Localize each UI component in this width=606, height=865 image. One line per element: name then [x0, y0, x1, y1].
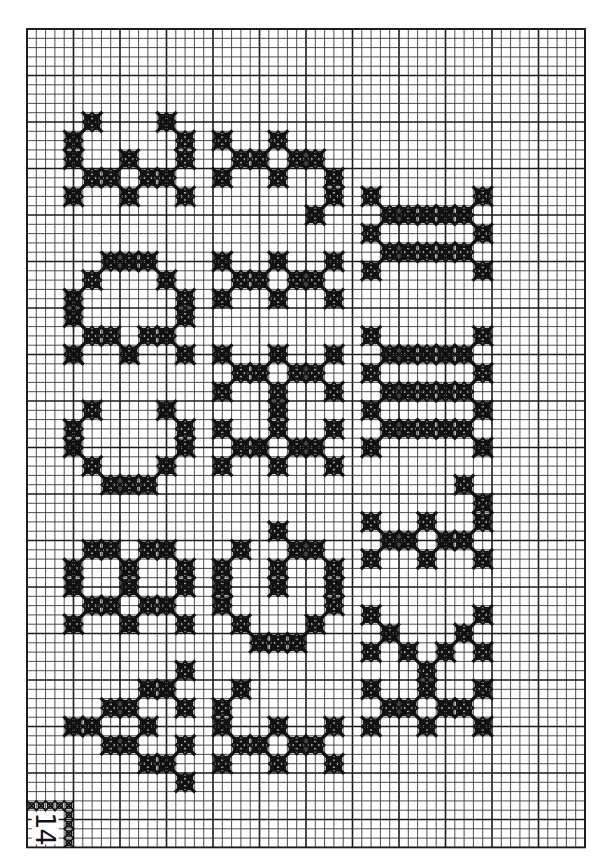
stitch — [474, 364, 492, 382]
stitch — [399, 532, 417, 550]
stitch — [306, 150, 324, 168]
stitch — [176, 736, 194, 754]
stitch — [102, 253, 120, 271]
stitch — [269, 634, 287, 652]
stitch — [325, 457, 343, 475]
stitch — [120, 699, 138, 717]
frame-stitch — [65, 838, 74, 847]
stitch — [399, 420, 417, 438]
stitch — [455, 346, 473, 364]
stitch — [176, 615, 194, 633]
stitch — [65, 132, 83, 150]
stitch — [120, 559, 138, 577]
cross-stitch-chart — [0, 0, 606, 865]
frame-stitch — [27, 801, 36, 810]
stitch — [232, 736, 250, 754]
stitch — [251, 150, 269, 168]
frame-stitch — [65, 811, 74, 820]
stitch — [176, 308, 194, 326]
stitch — [251, 364, 269, 382]
stitch — [474, 262, 492, 280]
stitch — [325, 169, 343, 187]
stitch — [176, 662, 194, 680]
stitch — [306, 271, 324, 289]
stitch — [213, 597, 231, 615]
stitch — [362, 262, 380, 280]
stitch — [381, 625, 399, 643]
stitch — [362, 187, 380, 205]
stitch — [139, 718, 157, 736]
stitch — [399, 206, 417, 224]
stitch — [213, 699, 231, 717]
stitch — [176, 187, 194, 205]
stitch — [232, 364, 250, 382]
stitch — [158, 457, 176, 475]
stitch — [418, 383, 436, 401]
stitch — [362, 606, 380, 624]
stitch — [213, 457, 231, 475]
stitch — [269, 559, 287, 577]
stitch — [232, 615, 250, 633]
stitch — [176, 439, 194, 457]
stitch — [213, 578, 231, 596]
stitch — [474, 680, 492, 698]
stitch — [232, 150, 250, 168]
stitch — [474, 550, 492, 568]
frame-stitch — [46, 801, 55, 810]
stitch — [213, 132, 231, 150]
stitch — [325, 597, 343, 615]
stitch — [418, 206, 436, 224]
stitch — [232, 541, 250, 559]
stitch — [362, 401, 380, 419]
stitch — [437, 420, 455, 438]
stitch — [158, 541, 176, 559]
stitch — [269, 522, 287, 540]
stitch — [65, 346, 83, 364]
stitch — [120, 187, 138, 205]
stitch — [251, 439, 269, 457]
stitch — [102, 476, 120, 494]
stitch — [288, 150, 306, 168]
stitch — [325, 346, 343, 364]
stitch — [139, 476, 157, 494]
stitch — [65, 439, 83, 457]
stitch — [288, 439, 306, 457]
stitch — [139, 541, 157, 559]
stitch — [65, 615, 83, 633]
stitch — [381, 206, 399, 224]
stitch — [158, 271, 176, 289]
stitch — [176, 699, 194, 717]
stitch — [102, 736, 120, 754]
stitch — [251, 634, 269, 652]
stitch — [418, 550, 436, 568]
stitch — [418, 680, 436, 698]
stitch — [176, 559, 194, 577]
stitch — [139, 755, 157, 773]
stitch — [120, 253, 138, 271]
stitch — [474, 401, 492, 419]
stitch — [65, 578, 83, 596]
stitch — [381, 346, 399, 364]
stitch — [288, 271, 306, 289]
stitch — [158, 113, 176, 131]
stitch — [455, 625, 473, 643]
stitch — [325, 253, 343, 271]
stitch — [437, 346, 455, 364]
stitch — [269, 401, 287, 419]
stitch — [120, 615, 138, 633]
stitch — [251, 736, 269, 754]
stitch — [399, 699, 417, 717]
stitch — [418, 420, 436, 438]
stitch — [251, 271, 269, 289]
stitch — [232, 439, 250, 457]
stitch — [362, 327, 380, 345]
stitch — [381, 243, 399, 261]
stitch — [325, 718, 343, 736]
stitch — [325, 383, 343, 401]
stitch — [306, 736, 324, 754]
stitch — [399, 643, 417, 661]
stitch — [65, 420, 83, 438]
stitch — [474, 439, 492, 457]
stitch — [474, 643, 492, 661]
stitch — [269, 346, 287, 364]
